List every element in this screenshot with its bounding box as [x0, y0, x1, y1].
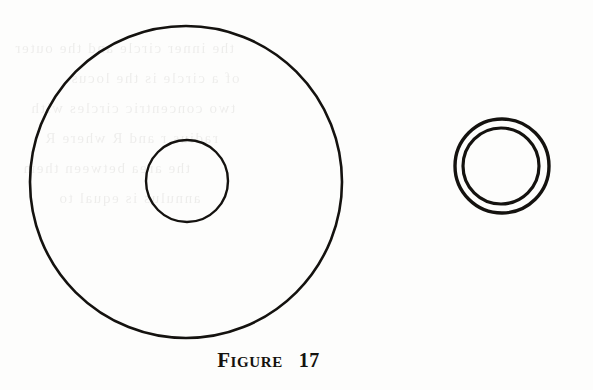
small-inner-circle [463, 128, 539, 204]
figure-illustration [0, 0, 593, 390]
figure-caption-label: Figure [217, 348, 283, 372]
small-outer-circle [455, 119, 549, 213]
left-figure-group [30, 26, 342, 338]
large-outer-circle [30, 26, 342, 338]
figure-caption-number: 17 [299, 349, 320, 371]
figure-page: the inner circle and the outer of a circ… [0, 0, 593, 390]
right-figure-group [455, 119, 549, 213]
figure-caption: Figure17 [0, 348, 593, 373]
large-inner-circle [146, 140, 228, 222]
